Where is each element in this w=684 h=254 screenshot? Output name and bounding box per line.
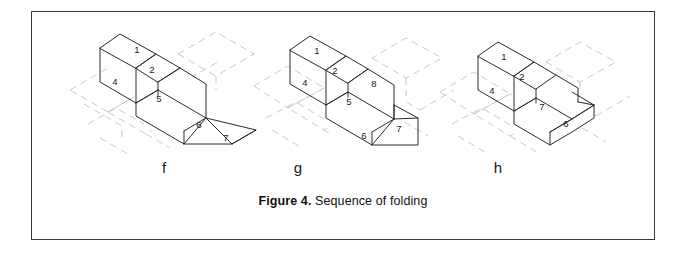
face-number-5: 5: [156, 93, 161, 104]
solid-body-g: [290, 36, 418, 162]
solid-body-h: [478, 42, 594, 152]
solid-body-f: [100, 34, 256, 148]
face-number-2: 2: [519, 71, 524, 82]
face-number-7: 7: [539, 101, 544, 112]
face-number-7: 7: [223, 132, 228, 143]
face-number-6: 6: [563, 118, 568, 129]
face-number-1: 1: [314, 45, 319, 56]
figure-panel-f: 1 2 4 5 6 7: [60, 12, 268, 162]
face-number-1: 1: [134, 44, 139, 55]
face-number-2: 2: [149, 64, 154, 75]
panel-sublabel-h: h: [468, 159, 528, 176]
figure-caption: Figure 4. Sequence of folding: [32, 194, 654, 208]
isometric-drawing-g: 1 2 4 5 8 6 7: [254, 12, 462, 162]
figure-panels: 1 2 4 5 6 7: [32, 12, 654, 162]
face-number-8: 8: [371, 78, 376, 89]
figure-frame: 1 2 4 5 6 7: [31, 11, 655, 240]
panel-sublabel-f: f: [134, 159, 194, 176]
face-number-6: 6: [196, 119, 201, 130]
figure-caption-text: Sequence of folding: [312, 194, 428, 208]
isometric-drawing-f: 1 2 4 5 6 7: [60, 12, 268, 162]
face-number-7: 7: [396, 123, 401, 134]
face-number-4: 4: [112, 76, 117, 87]
face-number-2: 2: [332, 65, 337, 76]
panel-sublabels: f g h: [32, 159, 654, 185]
figure-caption-label: Figure 4.: [259, 194, 312, 208]
face-number-6: 6: [361, 130, 366, 141]
face-number-4: 4: [489, 85, 494, 96]
face-number-4: 4: [302, 77, 307, 88]
isometric-drawing-h: 1 2 4 7 6: [438, 12, 646, 162]
figure-panel-g: 1 2 4 5 8 6 7: [254, 12, 462, 162]
face-number-1: 1: [501, 51, 506, 62]
panel-sublabel-g: g: [268, 159, 328, 176]
face-number-5: 5: [346, 96, 351, 107]
figure-panel-h: 1 2 4 7 6: [438, 12, 646, 162]
